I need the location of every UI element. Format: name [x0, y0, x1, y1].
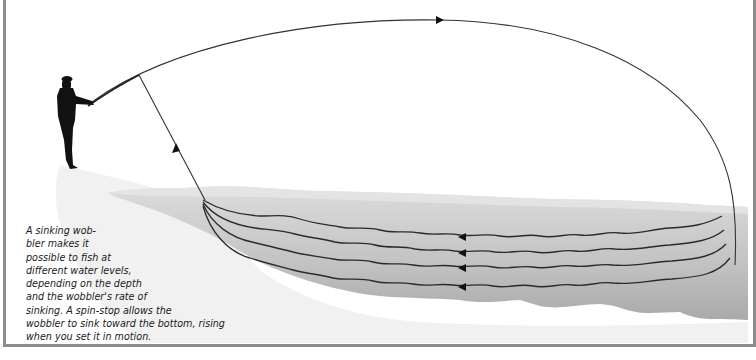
figure-caption: A sinking wob- bler makes it possible to…	[26, 224, 226, 344]
caption-line: and the wobbler's rate of	[26, 290, 226, 303]
fishing-rod	[88, 75, 139, 106]
caption-line: different water levels,	[26, 264, 226, 277]
caption-line: sinking. A spin-stop allows the	[26, 304, 226, 317]
caption-line: possible to fish at	[26, 251, 226, 264]
caption-line: bler makes it	[26, 237, 226, 250]
cast-direction-arrow-icon	[436, 16, 444, 24]
angler-silhouette-icon	[57, 76, 94, 169]
caption-line: A sinking wob-	[26, 224, 226, 237]
caption-line: depending on the depth	[26, 277, 226, 290]
line-to-rod	[139, 75, 205, 200]
caption-line: when you set it in motion.	[26, 330, 226, 343]
caption-line: wobbler to sink toward the bottom, risin…	[26, 317, 226, 330]
